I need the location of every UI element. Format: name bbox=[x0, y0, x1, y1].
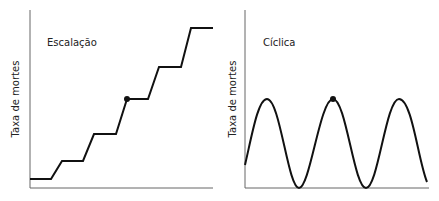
highlight-point bbox=[124, 96, 130, 102]
y-axis-label: Taxa de mortes bbox=[10, 61, 21, 139]
sine-line bbox=[245, 99, 427, 188]
chart-title: Cíclica bbox=[263, 37, 295, 48]
y-axis-label: Taxa de mortes bbox=[227, 61, 238, 139]
figure: Escalação Taxa de mortes Cíclica Taxa de… bbox=[0, 0, 439, 201]
highlight-point bbox=[330, 96, 336, 102]
staircase-line bbox=[30, 28, 213, 179]
chart-ciclica: Cíclica Taxa de mortes bbox=[227, 10, 429, 188]
chart-title: Escalação bbox=[47, 37, 97, 48]
chart-escalacao: Escalação Taxa de mortes bbox=[10, 10, 213, 188]
